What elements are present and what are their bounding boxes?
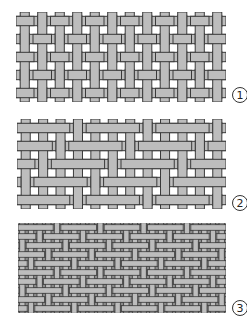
panel-label-2: 2 bbox=[232, 195, 247, 211]
panel-satin-weave bbox=[18, 223, 226, 313]
panel-label-3: 3 bbox=[232, 300, 247, 316]
panel-label-1: 1 bbox=[232, 87, 247, 103]
panel-plain-weave bbox=[16, 12, 226, 102]
panel-twill-weave bbox=[17, 119, 226, 209]
